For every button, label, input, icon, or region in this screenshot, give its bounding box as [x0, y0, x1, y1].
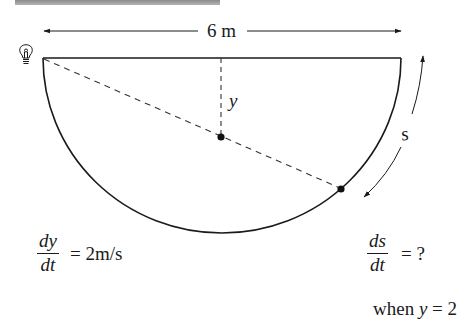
- lightbulb-icon: [20, 45, 33, 64]
- fraction-denominator: dt: [370, 255, 385, 275]
- condition-prefix: when: [373, 298, 419, 319]
- given-rate-value: = 2m/s: [70, 243, 122, 265]
- dy-dt-fraction: dy dt: [37, 231, 59, 275]
- ds-dt-fraction: ds dt: [367, 231, 388, 275]
- width-label: 6 m: [204, 20, 239, 42]
- fraction-numerator: ds: [367, 231, 388, 251]
- depth-variable-label: y: [229, 90, 237, 112]
- semicircle-diagram: [0, 0, 475, 323]
- unknown-rate-value: = ?: [401, 243, 425, 265]
- arc-length-arrow: [364, 56, 423, 197]
- condition-value: = 2: [427, 298, 457, 319]
- arc-point: [337, 185, 344, 192]
- light-ray-dashed-line: [44, 59, 340, 188]
- fraction-denominator: dt: [41, 255, 56, 275]
- semicircle-outline: [43, 58, 401, 233]
- center-point: [217, 133, 224, 140]
- condition-text: when y = 2: [373, 298, 457, 320]
- fraction-numerator: dy: [37, 231, 59, 251]
